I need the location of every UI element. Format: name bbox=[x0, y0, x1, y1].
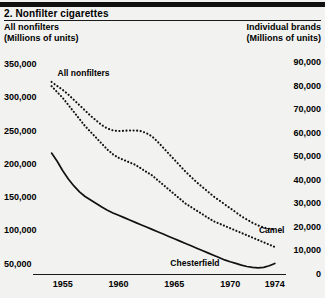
left-axis-units: (Millions of units) bbox=[4, 33, 79, 44]
series-label-chesterfield: Chesterfield bbox=[170, 259, 219, 268]
series-line-all-nonfilters bbox=[52, 82, 275, 230]
top-rule-bar bbox=[0, 2, 325, 7]
right-axis-heading: Individual brands (Millions of units) bbox=[246, 22, 321, 44]
right-axis-title: Individual brands bbox=[246, 22, 321, 33]
x-tick-label: 1955 bbox=[53, 279, 73, 289]
left-axis-title: All nonfilters bbox=[4, 22, 79, 33]
left-axis-heading: All nonfilters (Millions of units) bbox=[4, 22, 79, 44]
x-tick-label: 1970 bbox=[220, 279, 240, 289]
x-tick-label: 1965 bbox=[164, 279, 184, 289]
x-tick-label: 1960 bbox=[109, 279, 129, 289]
figure-root: 2. Nonfilter cigarettes All nonfilters (… bbox=[0, 0, 325, 298]
figure-title: 2. Nonfilter cigarettes bbox=[4, 8, 109, 19]
x-tick-label: 1974 bbox=[265, 279, 285, 289]
right-axis-units: (Millions of units) bbox=[246, 33, 321, 44]
series-line-camel bbox=[52, 86, 275, 247]
series-line-chesterfield bbox=[52, 153, 275, 268]
series-label-camel: Camel bbox=[259, 226, 285, 235]
plot-area: 350,000300,000250,000200,000150,000100,0… bbox=[0, 52, 325, 280]
series-label-all-nonfilters: All nonfilters bbox=[58, 69, 110, 78]
title-divider bbox=[4, 20, 321, 21]
series-curves bbox=[0, 52, 325, 280]
